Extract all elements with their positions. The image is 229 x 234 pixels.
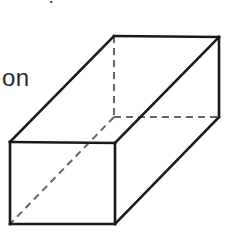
edge-front-top-left-to-front-top-right	[10, 142, 115, 143]
edge-back-top-left-to-back-top-right	[114, 36, 219, 37]
hidden-edge-back-bottom-left-to-front-bottom-left	[10, 117, 114, 224]
edge-front-top-right-to-back-top-right	[115, 37, 219, 143]
edge-front-top-left-to-back-top-left	[10, 36, 114, 142]
rectangular-prism-diagram	[0, 0, 229, 234]
edge-back-bottom-right-to-front-bottom-right	[115, 117, 219, 224]
